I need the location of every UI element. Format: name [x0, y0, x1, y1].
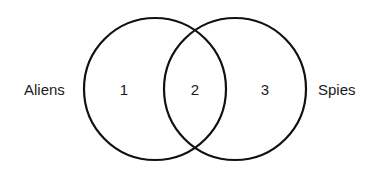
- region-aliens-only: 1: [120, 82, 128, 97]
- venn-diagram: Aliens Spies 1 2 3: [0, 0, 373, 172]
- region-spies-only: 3: [261, 82, 269, 97]
- spies-circle: [164, 18, 306, 160]
- region-intersection: 2: [191, 82, 199, 97]
- aliens-set-label: Aliens: [24, 82, 65, 97]
- spies-set-label: Spies: [318, 82, 356, 97]
- aliens-circle: [84, 18, 226, 160]
